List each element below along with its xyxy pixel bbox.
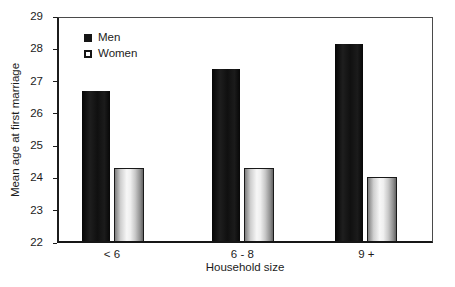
y-tick-label-22: 22 bbox=[30, 237, 43, 249]
y-tick-label-29: 29 bbox=[30, 11, 43, 23]
plot-area: Men Women bbox=[57, 17, 433, 243]
bar-group-2 bbox=[212, 18, 274, 241]
x-category-label-2: 6 - 8 bbox=[231, 248, 254, 260]
men-bar-group-1 bbox=[82, 91, 110, 241]
women-bar-group-2 bbox=[244, 168, 274, 241]
men-bar-group-2 bbox=[212, 69, 240, 241]
bar-chart-figure: Mean age at first marriage 2928272625242… bbox=[0, 0, 455, 287]
x-category-labels: < 66 - 89 + bbox=[57, 248, 433, 262]
women-bar-group-1 bbox=[114, 168, 144, 241]
y-tick-label-25: 25 bbox=[30, 140, 43, 152]
x-category-label-3: 9 + bbox=[358, 248, 374, 260]
x-category-label-1: < 6 bbox=[104, 248, 120, 260]
y-tick-label-28: 28 bbox=[30, 44, 43, 56]
women-bar-group-3 bbox=[367, 177, 397, 241]
x-axis-title: Household size bbox=[206, 261, 285, 273]
men-bar-group-3 bbox=[335, 44, 363, 242]
y-tick-label-27: 27 bbox=[30, 76, 43, 88]
y-tick-label-23: 23 bbox=[30, 205, 43, 217]
y-tick-label-24: 24 bbox=[30, 173, 43, 185]
y-tick-label-26: 26 bbox=[30, 108, 43, 120]
y-axis: 2928272625242322 bbox=[0, 17, 52, 243]
bar-group-1 bbox=[82, 18, 144, 241]
bar-group-3 bbox=[335, 18, 397, 241]
